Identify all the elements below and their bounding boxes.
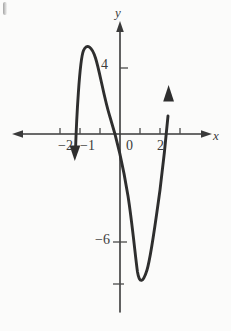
y-tick-label-4: 4 (101, 58, 108, 72)
cubic-curve (76, 46, 169, 280)
x-axis-arrowhead-right (201, 130, 212, 138)
curve-group (70, 46, 174, 280)
origin-label: 0 (126, 139, 133, 153)
curve-right-arrowhead-up (163, 85, 174, 102)
x-axis-label: x (213, 129, 219, 142)
figure-canvas: −2 −1 0 2 4 −6 x y (0, 0, 231, 331)
coordinate-graph (0, 0, 231, 331)
x-axis-group (12, 130, 212, 138)
x-tick-label-2: 2 (157, 139, 164, 153)
y-tick-label-neg6: −6 (95, 233, 110, 247)
x-tick-label-neg1: −1 (80, 139, 95, 153)
x-tick-label-neg2: −2 (58, 139, 73, 153)
y-axis-arrowhead-up (116, 21, 124, 32)
y-axis-label: y (115, 6, 121, 19)
x-axis-arrowhead-left (12, 130, 23, 138)
